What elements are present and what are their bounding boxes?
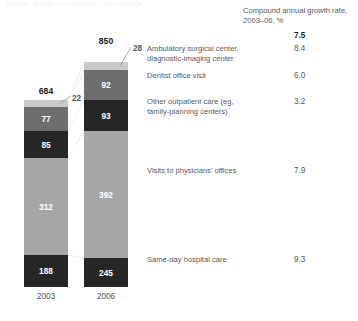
category-label-ambulatory: Ambulatory surgical center,diagnostic-im…: [147, 44, 252, 63]
segment-2003-physicians: 312: [24, 158, 68, 255]
stacked-bar-chart: Exhibit: growth in outpatient care setti…: [0, 0, 358, 321]
cagr-other: 3.2: [294, 97, 324, 106]
category-label-other: Other outpatient care (eg,family-plannin…: [147, 97, 252, 116]
segment-2006-other: 93: [84, 100, 128, 131]
axis-label-2006: 2006: [84, 292, 128, 301]
callout-2003-ambulatory: 22: [72, 93, 81, 103]
callout-2006-ambulatory: 28: [133, 43, 142, 53]
segment-2003-sameday: 188: [24, 255, 68, 287]
total-label-2003: 684: [24, 86, 68, 96]
segment-2006-sameday: 245: [84, 258, 128, 287]
segment-2006-dentist: 92: [84, 70, 128, 100]
category-label-physicians: Visits to physicians’ offices: [147, 166, 252, 176]
segment-2003-other: 85: [24, 131, 68, 158]
category-label-sameday: Same-day hospital care: [147, 255, 252, 265]
segment-2006-physicians: 392: [84, 131, 128, 258]
cagr-total: 7.5: [294, 31, 324, 40]
segment-2003-dentist: 77: [24, 107, 68, 131]
total-label-2006: 850: [84, 36, 128, 46]
cagr-sameday: 9.3: [294, 255, 324, 264]
cagr-dentist: 6.0: [294, 71, 324, 80]
segment-2003-ambulatory: 22: [24, 100, 68, 107]
segment-2006-ambulatory: 28: [84, 62, 128, 70]
category-label-dentist: Dentist office visit: [147, 71, 252, 81]
cagr-ambulatory: 8.4: [294, 44, 324, 53]
axis-label-2003: 2003: [24, 292, 68, 301]
cagr-physicians: 7.9: [294, 166, 324, 175]
